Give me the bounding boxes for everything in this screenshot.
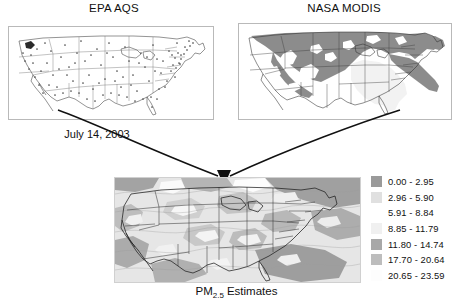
epa-aqs-map-svg (9, 27, 213, 119)
pm25-surface-map-svg (115, 178, 360, 282)
legend-label: 20.65 - 23.59 (388, 270, 445, 281)
legend-label: 0.00 - 2.95 (388, 176, 434, 187)
legend-swatch-icon (371, 270, 382, 281)
map-panel-pm25-estimates (114, 177, 361, 283)
legend-swatch-icon (371, 207, 382, 218)
figure-caption: PM2.5Estimates (114, 285, 359, 297)
pm25-legend: 0.00 - 2.95 2.96 - 5.90 5.91 - 8.84 8.85… (371, 174, 458, 283)
legend-row: 20.65 - 23.59 (371, 268, 458, 284)
figure-canvas: EPA AQS NASA MODIS (0, 0, 458, 307)
caption-prefix: PM (196, 285, 213, 297)
panel-title-epa-aqs: EPA AQS (8, 2, 220, 14)
nasa-modis-map-svg (239, 24, 451, 119)
legend-row: 8.85 - 11.79 (371, 221, 458, 237)
legend-swatch-icon (371, 223, 382, 234)
legend-swatch-icon (371, 254, 382, 265)
legend-label: 17.70 - 20.64 (388, 254, 445, 265)
legend-label: 5.91 - 8.84 (388, 207, 434, 218)
modis-to-fused-arrow (230, 110, 400, 176)
map-panel-epa-aqs (8, 26, 214, 120)
map-panel-nasa-modis (238, 23, 452, 120)
legend-row: 2.96 - 5.90 (371, 190, 458, 206)
legend-swatch-icon (371, 176, 382, 187)
legend-label: 2.96 - 5.90 (388, 192, 434, 203)
caption-suffix: Estimates (227, 285, 278, 297)
epa-to-fused-arrow (58, 110, 218, 176)
legend-label: 8.85 - 11.79 (388, 223, 439, 234)
legend-row: 17.70 - 20.64 (371, 252, 458, 268)
legend-row: 5.91 - 8.84 (371, 205, 458, 221)
legend-label: 11.80 - 14.74 (388, 239, 444, 250)
legend-row: 11.80 - 14.74 (371, 236, 458, 252)
legend-swatch-icon (371, 239, 382, 250)
panel-title-nasa-modis: NASA MODIS (238, 2, 450, 14)
legend-row: 0.00 - 2.95 (371, 174, 458, 190)
caption-subscript: 2.5 (213, 291, 224, 300)
legend-swatch-icon (371, 192, 382, 203)
